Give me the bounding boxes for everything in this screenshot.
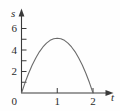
x-axis-title: t <box>111 92 114 103</box>
parabola-curve <box>22 38 94 93</box>
parabola-chart-figure: s t 6 4 2 0 1 2 <box>0 0 120 111</box>
y-tick-label-2: 2 <box>1 66 17 77</box>
chart-canvas <box>0 0 120 111</box>
y-axis-title: s <box>11 8 15 19</box>
x-tick-label-2: 2 <box>85 96 101 107</box>
y-axis-arrow-icon <box>19 9 25 17</box>
y-tick-label-6: 6 <box>1 23 17 34</box>
y-tick-label-4: 4 <box>1 45 17 56</box>
x-tick-label-1: 1 <box>49 96 65 107</box>
y-tick-label-0: 0 <box>1 96 17 107</box>
